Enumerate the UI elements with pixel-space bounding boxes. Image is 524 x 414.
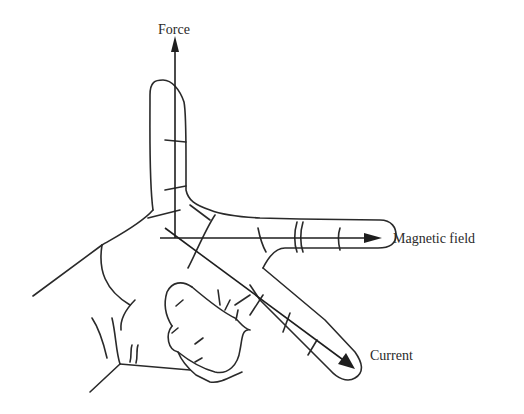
wrist-lower (120, 364, 190, 370)
palm-curve (102, 210, 153, 245)
thumb-outline (150, 80, 396, 268)
palm-crease (101, 245, 130, 305)
current-label: Current (370, 348, 413, 363)
magnetic-field-arrowhead-icon (364, 233, 382, 243)
wrist-bottom-line (90, 364, 120, 392)
middle-finger-base (188, 215, 215, 268)
palm-creases-lower (92, 300, 138, 364)
force-axis (171, 36, 179, 238)
curled-finger-2 (192, 287, 250, 330)
current-axis (165, 228, 355, 369)
hand-drawing (33, 80, 396, 392)
knuckle-lines (172, 290, 238, 362)
current-arrowhead-icon (338, 353, 355, 369)
force-label: Force (158, 22, 190, 37)
curled-finger-3 (168, 326, 248, 373)
wrist-upper (33, 245, 102, 296)
magnetic-field-label: Magnetic field (393, 231, 475, 246)
magnetic-field-axis (160, 233, 382, 243)
left-hand-rule-diagram: Force Magnetic field Current (0, 0, 524, 414)
thumb-crease-marks (148, 140, 210, 220)
force-arrowhead-icon (171, 36, 179, 52)
